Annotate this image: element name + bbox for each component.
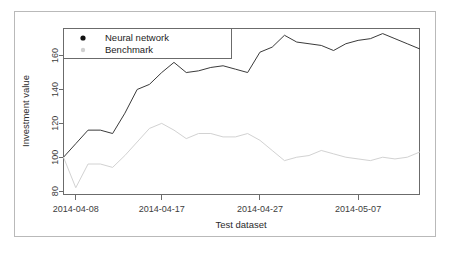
- legend-label-benchmark: Benchmark: [105, 44, 153, 55]
- y-tick-label: 80: [50, 186, 60, 196]
- y-tick-label: 100: [50, 150, 60, 165]
- investment-value-line-chart: 80100120140160 2014-04-082014-04-172014-…: [15, 12, 435, 236]
- x-tick-label: 2014-04-27: [237, 204, 283, 214]
- figure-frame: 80100120140160 2014-04-082014-04-172014-…: [14, 11, 436, 237]
- chart-screenshot: 80100120140160 2014-04-082014-04-172014-…: [0, 0, 451, 255]
- chart-legend[interactable]: Neural network Benchmark: [64, 29, 232, 59]
- series-line-benchmark: [64, 123, 420, 187]
- y-tick-label: 160: [50, 48, 60, 63]
- x-axis-title: Test dataset: [215, 219, 267, 230]
- y-axis-title: Investment value: [20, 75, 31, 147]
- legend-marker-neural-network: [80, 35, 85, 40]
- y-tick-label: 120: [50, 116, 60, 131]
- x-tick-label: 2014-05-07: [335, 204, 381, 214]
- x-tick-label: 2014-04-17: [139, 204, 185, 214]
- legend-marker-benchmark: [81, 48, 85, 52]
- legend-label-neural-network: Neural network: [105, 32, 169, 43]
- y-axis: 80100120140160: [50, 48, 64, 196]
- x-axis: 2014-04-082014-04-172014-04-272014-05-07: [53, 195, 381, 214]
- y-tick-label: 140: [50, 82, 60, 97]
- x-tick-label: 2014-04-08: [53, 204, 99, 214]
